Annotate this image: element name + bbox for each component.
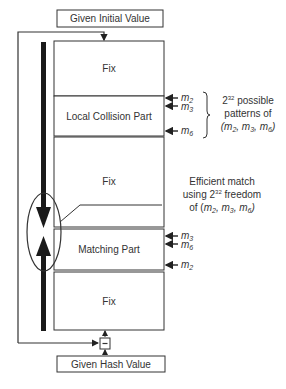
match-note: Efficient match using 232 freedom of (m2… [183,176,261,214]
svg-text:232 possible: 232 possible [222,95,274,106]
minus-box-icon [100,338,110,349]
matching-inputs: m3 m6 m2 [166,230,193,271]
brace-note: 232 possible patterns of (m2, m3, m6) [221,95,276,133]
block-fix-3: Fix [54,272,164,330]
svg-text:patterns of: patterns of [224,108,271,119]
block-fix-1: Fix [54,41,164,96]
svg-text:of (m2, m3, m6): of (m2, m3, m6) [189,202,255,214]
initial-value-label: Given Initial Value [70,13,150,24]
backward-arrow-icon [36,236,51,331]
svg-text:Matching Part: Matching Part [78,244,140,255]
attack-diagram: Given Initial Value Fix Local Collision … [0,0,286,389]
brace-icon [203,92,210,138]
local-collision-inputs: m2 m3 m6 [166,92,193,137]
svg-text:m6: m6 [181,125,193,137]
svg-text:m2: m2 [181,259,193,271]
svg-text:Fix: Fix [102,296,115,307]
block-matching: Matching Part [54,229,164,270]
block-local-collision: Local Collision Part [54,96,164,136]
hash-value-box: Given Hash Value [57,356,165,372]
svg-text:Fix: Fix [102,176,115,187]
svg-text:Efficient match: Efficient match [189,176,254,187]
svg-text:Local Collision Part: Local Collision Part [66,111,152,122]
svg-text:using 232 freedom: using 232 freedom [183,189,261,200]
hash-value-label: Given Hash Value [71,359,151,370]
svg-text:(m2, m3, m6): (m2, m3, m6) [221,121,276,133]
forward-arrow-icon [36,42,51,228]
svg-text:Fix: Fix [102,63,115,74]
initial-value-box: Given Initial Value [57,10,163,27]
